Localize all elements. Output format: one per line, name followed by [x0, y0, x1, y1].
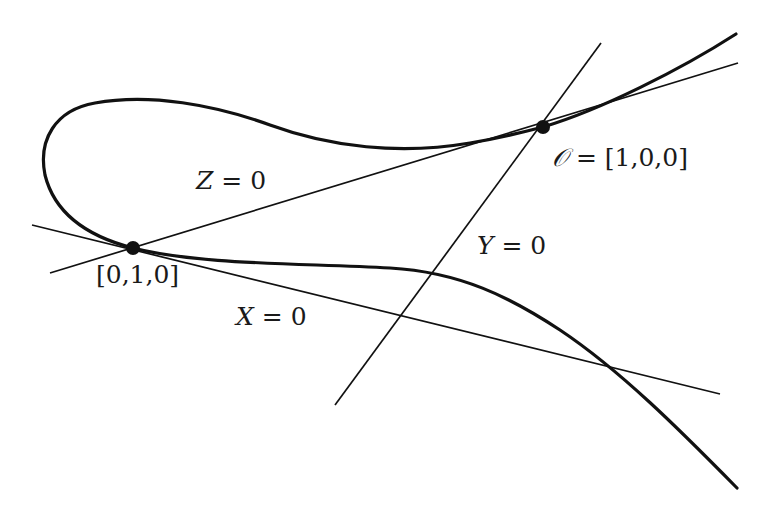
label-y-equals-0: Y = 0: [477, 231, 546, 260]
point-0-1-0: [126, 241, 140, 255]
label-x-equals-0: X = 0: [234, 302, 307, 331]
label-point-o: 𝒪 = [1,0,0]: [552, 143, 688, 172]
cubic-curve-diagram: 𝒪 = [1,0,0] [0,1,0] Z = 0 X = 0 Y = 0: [0, 0, 763, 511]
label-z-equals-0: Z = 0: [195, 166, 266, 195]
point-o: [536, 120, 550, 134]
line-y-equals-0: [335, 43, 601, 405]
label-point-0-1-0: [0,1,0]: [96, 260, 179, 289]
